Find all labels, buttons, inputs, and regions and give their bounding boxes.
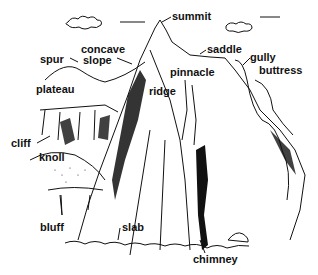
label-concave-slope-line2: slope [83,55,112,66]
label-buttress: buttress [259,65,302,76]
label-chimney: chimney [193,254,238,265]
label-spur: spur [40,54,64,65]
mountain-illustration [0,0,318,275]
label-slab: slab [122,222,144,233]
label-knoll: knoll [39,152,65,163]
label-saddle: saddle [207,44,242,55]
label-ridge: ridge [149,86,176,97]
label-bluff: bluff [40,222,64,233]
label-summit: summit [172,11,211,22]
label-gully: gully [250,52,276,63]
label-plateau: plateau [36,84,75,95]
label-pinnacle: pinnacle [170,67,215,78]
label-cliff: cliff [11,138,31,149]
mountain-diagram: summit concave slope spur saddle gully b… [0,0,318,275]
